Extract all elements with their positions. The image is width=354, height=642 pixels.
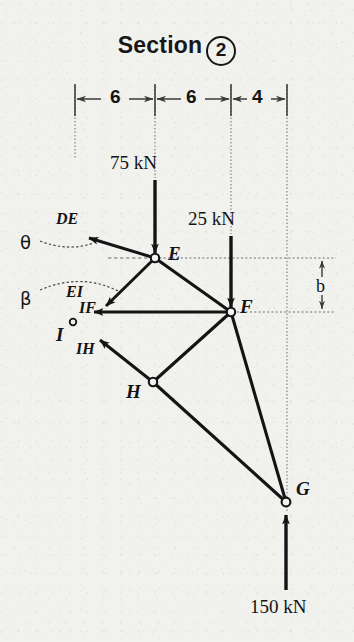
member-label-IH: IH bbox=[76, 340, 95, 358]
joint-label-H: H bbox=[126, 381, 141, 403]
angle-label-beta: β bbox=[20, 288, 32, 309]
joint-node-G bbox=[282, 498, 291, 507]
force-arrow-DE bbox=[89, 238, 155, 258]
figure-page: Section2 bbox=[0, 0, 354, 642]
load-label-75kN: 75 kN bbox=[110, 152, 157, 174]
joint-nodes bbox=[70, 254, 291, 507]
member-FG bbox=[231, 312, 286, 502]
joint-node-F bbox=[227, 308, 235, 316]
joint-node-I bbox=[70, 319, 77, 326]
load-label-25kN: 25 kN bbox=[188, 208, 235, 230]
joint-label-E: E bbox=[168, 243, 181, 265]
extension-lines bbox=[75, 86, 287, 512]
truss-members bbox=[153, 258, 286, 502]
joint-node-H bbox=[149, 378, 157, 386]
load-label-150kN: 150 kN bbox=[250, 596, 306, 618]
dim-label-b: b bbox=[316, 276, 325, 297]
dim-label-2: 4 bbox=[252, 86, 263, 108]
joint-node-E bbox=[151, 254, 159, 262]
member-label-IF: IF bbox=[79, 299, 96, 317]
joint-label-I: I bbox=[56, 324, 63, 346]
joint-label-G: G bbox=[296, 478, 310, 500]
angle-label-theta: θ bbox=[20, 232, 31, 253]
member-EF bbox=[155, 258, 231, 312]
joint-label-F: F bbox=[240, 296, 253, 318]
leader-theta bbox=[40, 241, 94, 247]
dim-label-1: 6 bbox=[186, 86, 197, 108]
member-label-DE: DE bbox=[56, 210, 78, 228]
load-arrows bbox=[155, 180, 286, 590]
member-HG bbox=[153, 382, 286, 502]
force-arrow-EI bbox=[106, 258, 155, 306]
member-FH bbox=[153, 312, 231, 382]
truss-section-diagram bbox=[0, 0, 354, 642]
force-arrow-IH bbox=[100, 340, 153, 382]
dim-label-0: 6 bbox=[110, 86, 121, 108]
